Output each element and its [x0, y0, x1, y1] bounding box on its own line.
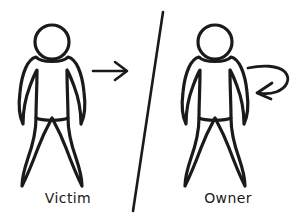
victim-head [35, 25, 69, 59]
owner-torso-arms [182, 57, 248, 124]
owner-label: Owner [160, 190, 296, 206]
arrow-right-icon [93, 62, 127, 80]
arrow-curve-loop-back-icon [248, 66, 288, 99]
victim-figure [19, 25, 85, 186]
victim-label: Victim [0, 190, 136, 206]
owner-legs [185, 118, 245, 186]
diagram-canvas: Victim Owner [0, 0, 298, 224]
victim-legs [22, 118, 82, 186]
owner-figure [182, 25, 248, 186]
curved-arrow-head [257, 83, 272, 99]
owner-head [198, 25, 232, 59]
slash-divider-icon [133, 12, 163, 211]
victim-torso-arms [19, 57, 85, 124]
curved-arrow-shaft [248, 66, 288, 94]
